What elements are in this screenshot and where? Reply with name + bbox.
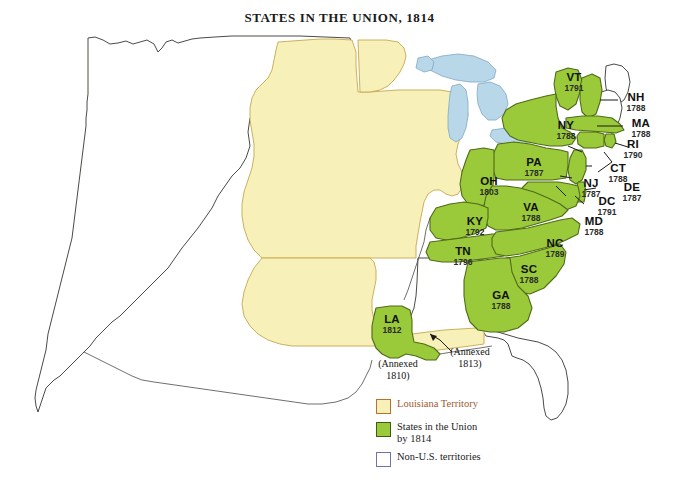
state-shape-nj — [568, 150, 586, 184]
legend-label-non-us-territories: Non-U.S. territories — [397, 451, 481, 463]
legend-item-louisiana-territory: Louisiana Territory — [376, 398, 481, 414]
legend-label-louisiana-territory: Louisiana Territory — [397, 398, 478, 410]
louisiana-territory-swatch — [376, 399, 391, 414]
states-in-union-swatch — [376, 422, 391, 437]
map-legend: Louisiana Territory States in the Union … — [376, 398, 481, 474]
state-shape-pa — [492, 142, 568, 180]
legend-item-states-in-union: States in the Union by 1814 — [376, 421, 481, 444]
non-us-territories-swatch — [376, 452, 391, 467]
map-figure: STATES IN THE UNION, 1814 — [0, 0, 679, 504]
legend-label-states-in-union: States in the Union by 1814 — [397, 421, 477, 444]
annexed-1813-pointer — [420, 332, 460, 354]
state-shape-ri — [604, 134, 616, 148]
united-states-map-1814 — [0, 0, 679, 504]
state-shape-ky — [430, 202, 488, 240]
state-shape-ct — [577, 132, 604, 148]
state-shape-vt — [554, 68, 582, 110]
annotation-annexed-1810: (Annexed 1810) — [360, 358, 436, 382]
legend-item-non-us-territories: Non-U.S. territories — [376, 451, 481, 467]
